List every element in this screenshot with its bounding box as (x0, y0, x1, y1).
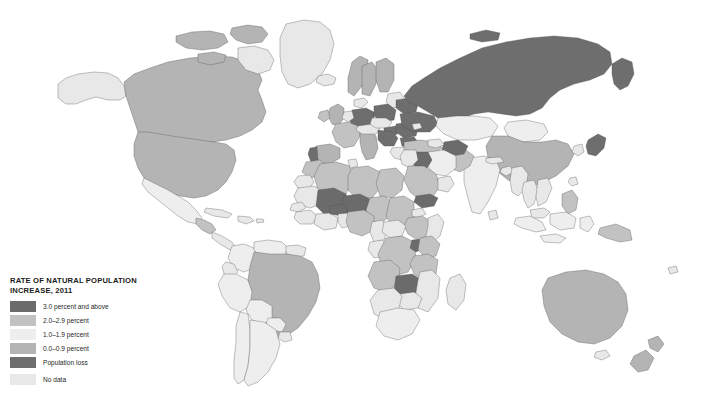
legend-item-very-high[interactable]: 3.0 percent and above (8, 300, 148, 313)
legend-item-low[interactable]: 0.0–0.9 percent (8, 342, 148, 355)
legend-item-no-data[interactable]: No data (8, 373, 148, 386)
legend-label-high: 2.0–2.9 percent (43, 317, 89, 325)
country-libya[interactable] (348, 166, 380, 198)
legend-swatch-loss (10, 357, 36, 368)
legend-swatch-high (10, 315, 36, 326)
map-page: RATE OF NATURAL POPULATION INCREASE, 201… (0, 0, 701, 403)
legend-swatch-medium (10, 329, 36, 340)
legend-label-low: 0.0–0.9 percent (43, 345, 89, 353)
country-nigeria[interactable] (346, 210, 374, 236)
legend-label-very-high: 3.0 percent and above (43, 303, 109, 311)
legend-label-no-data: No data (43, 376, 66, 384)
map-legend: RATE OF NATURAL POPULATION INCREASE, 201… (8, 276, 148, 387)
legend-swatch-very-high (10, 301, 36, 312)
legend-swatch-low (10, 343, 36, 354)
legend-item-medium[interactable]: 1.0–1.9 percent (8, 328, 148, 341)
country-sri-lanka[interactable] (488, 210, 498, 220)
legend-label-medium: 1.0–1.9 percent (43, 331, 89, 339)
legend-item-loss[interactable]: Population loss (8, 356, 148, 369)
legend-label-loss: Population loss (43, 359, 88, 367)
legend-item-high[interactable]: 2.0–2.9 percent (8, 314, 148, 327)
legend-swatch-no-data (10, 374, 36, 385)
legend-title: RATE OF NATURAL POPULATION INCREASE, 201… (10, 276, 148, 295)
